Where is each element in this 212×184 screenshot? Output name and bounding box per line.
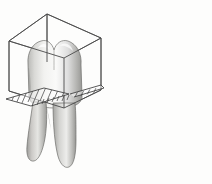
illustration-canvas: cube [0, 0, 212, 184]
tooth-geometry-diagram [0, 0, 212, 184]
